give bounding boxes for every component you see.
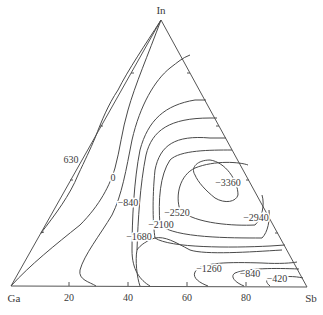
contour-lines bbox=[11, 20, 303, 286]
contour-label-840-right: −840 bbox=[240, 268, 261, 279]
ternary-contour-diagram: In Ga Sb 20 40 60 80 630 0 −840 −1680 −2… bbox=[0, 0, 323, 315]
contour-label-2100: −2100 bbox=[148, 219, 174, 230]
contour-label-2940: −2940 bbox=[243, 212, 269, 223]
tick-label-60: 60 bbox=[182, 292, 192, 303]
contour-label-2520: −2520 bbox=[164, 207, 190, 218]
contour-label-3360: −3360 bbox=[215, 177, 241, 188]
label-in: In bbox=[156, 4, 166, 16]
tick-label-40: 40 bbox=[123, 292, 133, 303]
contour-label-1260: −1260 bbox=[196, 263, 222, 274]
tick-label-20: 20 bbox=[64, 292, 74, 303]
label-ga: Ga bbox=[8, 292, 21, 304]
triangle-frame bbox=[11, 20, 307, 287]
tick-label-80: 80 bbox=[241, 292, 251, 303]
contour-2100 bbox=[153, 137, 285, 247]
contour-label-840-left: −840 bbox=[118, 197, 139, 208]
contour-1260 bbox=[132, 100, 297, 286]
contour-label-1680: −1680 bbox=[126, 231, 152, 242]
label-sb: Sb bbox=[305, 292, 317, 304]
contour-label-630: 630 bbox=[64, 154, 79, 165]
contour-label-0: 0 bbox=[111, 172, 116, 183]
contour-labels: 630 0 −840 −1680 −2100 −2520 −3360 −2940… bbox=[64, 154, 288, 284]
contour-label-420: −420 bbox=[267, 273, 288, 284]
